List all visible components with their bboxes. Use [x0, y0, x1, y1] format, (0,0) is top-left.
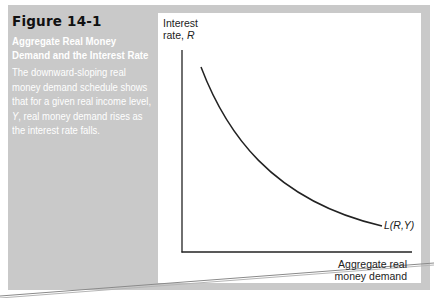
y-label-prefix: rate,: [163, 29, 187, 41]
y-label-var: R: [187, 29, 195, 41]
y-label-line1: Interest: [163, 17, 198, 29]
money-demand-curve: [201, 67, 382, 226]
y-axis-label: Interest rate, R: [163, 17, 198, 41]
curve-label: L(R,Y): [384, 219, 414, 231]
chart-svg: [0, 0, 434, 298]
x-label-line2: money demand: [335, 270, 407, 282]
x-label-line1: Aggregate real: [335, 258, 407, 270]
x-axis-label: Aggregate real money demand: [335, 258, 407, 282]
y-label-line2: rate, R: [163, 29, 198, 41]
